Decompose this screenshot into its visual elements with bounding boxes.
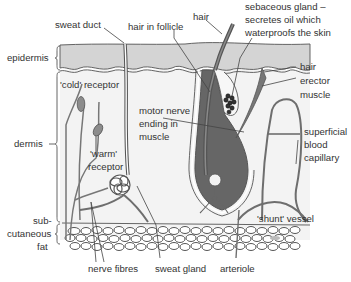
label-sweat-duct: sweat duct [55,19,101,30]
label-cold-receptor: 'cold' receptor [60,79,120,90]
label-hair: hair [193,11,210,22]
label-superficial-capillary-2: blood [304,139,327,150]
fat-dark-cell [270,236,280,240]
label-subcutaneous-1: sub- [33,215,52,226]
label-arteriole: arteriole [220,263,255,274]
label-hair-erector-1: hair [300,61,317,72]
label-superficial-capillary-1: superficial [304,126,347,137]
label-motor-nerve-3: muscle [139,131,169,142]
label-superficial-capillary-3: capillary [304,152,339,163]
hair-papilla [209,174,221,186]
label-sebaceous-gland-3: waterproofs the skin [244,27,331,38]
label-sebaceous-gland-2: secretes oil which [245,14,321,25]
label-hair-erector-3: muscle [300,89,330,100]
label-motor-nerve-1: motor nerve [139,105,190,116]
label-subcutaneous-3: fat [37,241,48,252]
label-warm-receptor-1: 'warm' [90,148,117,159]
label-warm-receptor-2: receptor [88,161,124,172]
label-hair-in-follicle: hair in follicle [128,21,183,32]
layer-brackets [55,46,60,244]
label-nerve-fibres: nerve fibres [88,263,138,274]
sweat-gland [110,175,130,195]
label-epidermis: epidermis [7,52,49,63]
label-sweat-gland: sweat gland [155,263,206,274]
label-shunt-vessel: 'shunt' vessel [257,213,314,224]
epidermis-layer [60,43,310,71]
cold-receptor [77,97,85,112]
label-subcutaneous-2: cutaneous [7,228,51,239]
label-motor-nerve-2: ending in [139,118,178,129]
skin-cross-section-diagram: sweat duct hair in follicle hair sebaceo… [0,0,351,282]
fat-cells [65,227,300,251]
label-hair-erector-2: erector [300,75,331,86]
label-sebaceous-gland-1: sebaceous gland – [245,1,326,12]
label-dermis: dermis [14,138,43,149]
